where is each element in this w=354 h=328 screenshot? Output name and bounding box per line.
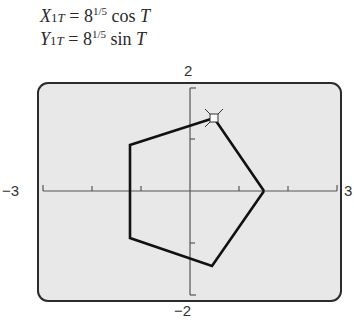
graph-screen [0, 0, 354, 328]
